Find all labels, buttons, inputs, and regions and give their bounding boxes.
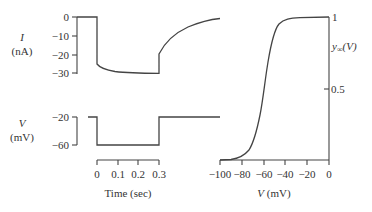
time-tick-label: 0.1 xyxy=(111,168,125,180)
time-tick-label: 0.2 xyxy=(131,168,145,180)
figure: I (nA) 0 −10 −20 −30 V (mV) −20 −60 0 0.… xyxy=(0,0,372,212)
time-tick-label: 0.3 xyxy=(152,168,166,180)
i-axis-unit: (nA) xyxy=(12,45,33,58)
time-axis: 0 0.1 0.2 0.3 Time (sec) xyxy=(94,160,166,200)
time-axis-label: Time (sec) xyxy=(105,187,152,200)
i-axis-name: I xyxy=(19,31,25,43)
v-x-tick-label: −60 xyxy=(255,168,273,180)
v-x-tick-label: −40 xyxy=(276,168,294,180)
v-tick-label: −20 xyxy=(52,111,70,123)
i-tick-label: 0 xyxy=(64,11,70,23)
v-axis-name: V xyxy=(19,117,27,129)
time-tick-label: 0 xyxy=(94,168,100,180)
v-axis-unit: (mV) xyxy=(10,131,34,144)
voltage-panel: V (mV) −20 −60 xyxy=(10,111,220,151)
v-x-tick-label: −80 xyxy=(233,168,251,180)
v-x-tick-label: −100 xyxy=(209,168,232,180)
activation-panel: −100 −80 −60 −40 −20 0 V (mV) 1 0.5 y∞(V… xyxy=(209,11,357,200)
i-tick-label: −30 xyxy=(52,67,70,79)
v-x-axis-label: V (mV) xyxy=(257,187,291,200)
current-trace xyxy=(77,17,220,73)
v-x-tick-label: 0 xyxy=(326,168,332,180)
y-inf-axis-label: y∞(V) xyxy=(331,40,357,54)
v-tick-label: −60 xyxy=(52,139,70,151)
y-inf-curve xyxy=(220,17,329,160)
i-tick-label: −20 xyxy=(52,49,70,61)
i-tick-label: −10 xyxy=(52,30,70,42)
y-inf-tick-label: 0.5 xyxy=(331,83,345,95)
voltage-trace xyxy=(88,117,220,145)
v-x-tick-label: −20 xyxy=(298,168,316,180)
current-panel: I (nA) 0 −10 −20 −30 xyxy=(12,11,220,79)
y-inf-tick-label: 1 xyxy=(332,11,338,23)
